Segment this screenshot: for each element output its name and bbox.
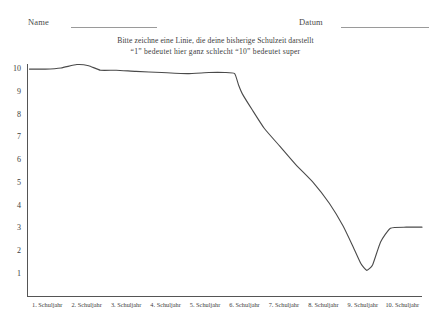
x-tick-label: 4. Schuljahr xyxy=(146,301,185,309)
x-tick-label: 1. Schuljahr xyxy=(28,301,67,309)
chart-canvas xyxy=(0,0,431,314)
hand-drawn-line xyxy=(29,65,422,271)
y-tick-label: 8 xyxy=(3,111,21,119)
x-tick-label: 5. Schuljahr xyxy=(185,301,224,309)
y-tick-label: 6 xyxy=(3,156,21,164)
y-tick-label: 3 xyxy=(3,224,21,232)
worksheet-page: Name Datum Bitte zeichne eine Linie, die… xyxy=(0,0,431,314)
x-tick-label: 9. Schuljahr xyxy=(343,301,382,309)
x-tick-label: 7. Schuljahr xyxy=(264,301,303,309)
y-tick-label: 7 xyxy=(3,133,21,141)
line-chart: 10987654321 1. Schuljahr2. Schuljahr3. S… xyxy=(0,0,431,314)
x-tick-label: 10. Schuljahr xyxy=(383,301,422,309)
y-tick-label: 9 xyxy=(3,88,21,96)
y-tick-label: 10 xyxy=(3,65,21,73)
axes xyxy=(27,64,422,297)
x-tick-label: 6. Schuljahr xyxy=(225,301,264,309)
x-tick-label: 3. Schuljahr xyxy=(106,301,145,309)
y-tick-label: 4 xyxy=(3,202,21,210)
y-tick-label: 5 xyxy=(3,179,21,187)
x-tick-label: 8. Schuljahr xyxy=(304,301,343,309)
x-tick-label: 2. Schuljahr xyxy=(67,301,106,309)
y-tick-label: 1 xyxy=(3,270,21,278)
y-tick-label: 2 xyxy=(3,247,21,255)
